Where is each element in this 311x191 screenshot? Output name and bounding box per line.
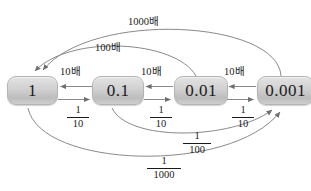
label-x10-a: 10배 [60,63,81,78]
label-div100: 1 100 [183,131,211,155]
label-div10-b: 1 10 [150,105,172,129]
node-hundredth-label: 0.01 [185,81,217,101]
node-one-label: 1 [28,81,37,101]
fraction-numerator: 1 [67,105,89,116]
fraction-denominator: 10 [232,119,254,130]
node-one[interactable]: 1 [7,76,58,105]
fraction-denominator: 100 [183,145,211,156]
diagram-canvas: 1 0.1 0.01 0.001 10배 10배 10배 100배 1000배 … [0,0,311,191]
node-hundredth[interactable]: 0.01 [174,76,228,105]
label-x1000: 1000배 [128,13,159,28]
node-thousandth-label: 0.001 [265,81,306,101]
fraction-numerator: 1 [183,131,211,142]
fraction-denominator: 10 [150,119,172,130]
node-thousandth[interactable]: 0.001 [257,76,311,105]
label-div10-c: 1 10 [232,105,254,129]
node-tenth[interactable]: 0.1 [92,76,144,105]
fraction-numerator: 1 [232,105,254,116]
label-x10-b: 10배 [141,63,162,78]
label-div1000: 1 1000 [147,156,181,180]
fraction-numerator: 1 [147,156,181,167]
node-tenth-label: 0.1 [107,81,130,101]
fraction-denominator: 10 [67,119,89,130]
label-div10-a: 1 10 [67,105,89,129]
label-x10-c: 10배 [224,63,245,78]
label-x100: 100배 [95,39,121,54]
fraction-numerator: 1 [150,105,172,116]
fraction-denominator: 1000 [147,170,181,181]
